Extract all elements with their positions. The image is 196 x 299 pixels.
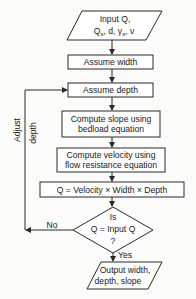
compute-slope-label-line2: bedload equation bbox=[62, 124, 160, 134]
decision-label-line1: Is bbox=[73, 212, 153, 222]
compute-velocity-label-line2: flow resistance equation bbox=[57, 160, 165, 170]
compute-q-label: Q = Velocity × Width × Depth bbox=[40, 185, 184, 195]
no-edge-label: No bbox=[42, 220, 62, 230]
loop-label-depth: depth bbox=[28, 118, 38, 148]
output-label-line1: Output width, bbox=[90, 265, 160, 275]
yes-edge-label: Yes bbox=[114, 250, 136, 260]
assume-width-label: Assume width bbox=[68, 57, 153, 67]
compute-slope-label-line1: Compute slope using bbox=[62, 114, 160, 124]
input-label-line1: Input Q, bbox=[82, 14, 148, 24]
compute-velocity-label-line1: Compute velocity using bbox=[57, 150, 165, 160]
loop-label-adjust: Adjust bbox=[12, 115, 22, 145]
output-label-line2: depth, slope bbox=[86, 276, 150, 286]
input-label-line2: Qs, d, γs, ν bbox=[76, 26, 152, 39]
decision-label-line3: ? bbox=[73, 236, 153, 246]
decision-label-line2: Q = Input Q bbox=[73, 224, 153, 234]
flowchart-canvas: Input Q, Qs, d, γs, ν Assume width Assum… bbox=[0, 0, 196, 299]
assume-depth-label: Assume depth bbox=[68, 85, 153, 95]
